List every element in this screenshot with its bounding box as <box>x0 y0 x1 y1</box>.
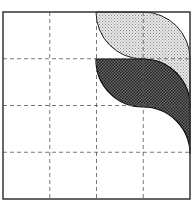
grid-figure <box>0 0 194 205</box>
